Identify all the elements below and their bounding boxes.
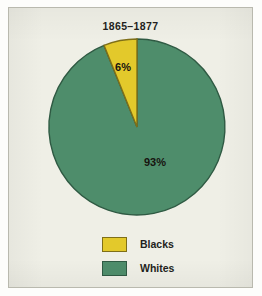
legend-label-whites: Whites xyxy=(140,262,174,274)
chart-legend: Blacks Whites xyxy=(102,232,232,280)
chart-page: 1865–1877 6% 93% Blacks Whites xyxy=(0,0,262,296)
legend-swatch-blacks-icon xyxy=(102,237,127,252)
chart-panel: 1865–1877 6% 93% Blacks Whites xyxy=(8,7,253,288)
legend-swatch-whites-icon xyxy=(102,261,127,276)
pie-label-blacks: 6% xyxy=(115,61,131,73)
pie-label-whites: 93% xyxy=(144,156,166,168)
legend-item-whites[interactable]: Whites xyxy=(102,256,232,280)
legend-label-blacks: Blacks xyxy=(140,238,174,250)
legend-item-blacks[interactable]: Blacks xyxy=(102,232,232,256)
